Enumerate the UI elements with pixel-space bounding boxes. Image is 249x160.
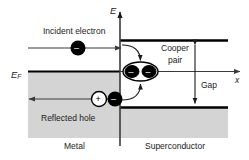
band-diagram-figure: – + – – – E x EF Incident electron Refle… bbox=[0, 0, 249, 160]
cooper-pair-label-line1: Cooper bbox=[161, 44, 189, 53]
position-axis-label: x bbox=[235, 76, 239, 85]
incident-electron-label: Incident electron bbox=[43, 27, 105, 36]
electron-into-pair-curved-arrow bbox=[122, 45, 141, 61]
cooper-electron-right-charge-sign: – bbox=[146, 68, 151, 77]
metal-region-label: Metal bbox=[64, 142, 85, 151]
fermi-level-label-subscript: F bbox=[17, 73, 21, 80]
superconductor-region-label: Superconductor bbox=[145, 142, 205, 151]
fermi-level-label: EF bbox=[11, 65, 21, 81]
gap-label: Gap bbox=[201, 81, 217, 90]
reflected-hole-label: Reflected hole bbox=[41, 114, 95, 123]
superconductor-filled-band-region bbox=[120, 108, 228, 139]
second-electron-into-pair-curved-arrow bbox=[122, 84, 141, 100]
andreev-electron-charge-sign: – bbox=[111, 95, 116, 104]
metal-filled-band-region bbox=[28, 72, 120, 139]
hole-charge-sign: + bbox=[96, 95, 101, 104]
cooper-pair-label-line2: pair bbox=[168, 56, 182, 65]
energy-axis-label: E bbox=[110, 6, 116, 16]
cooper-electron-left-charge-sign: – bbox=[129, 68, 134, 77]
incident-electron-charge-sign: – bbox=[74, 44, 79, 53]
